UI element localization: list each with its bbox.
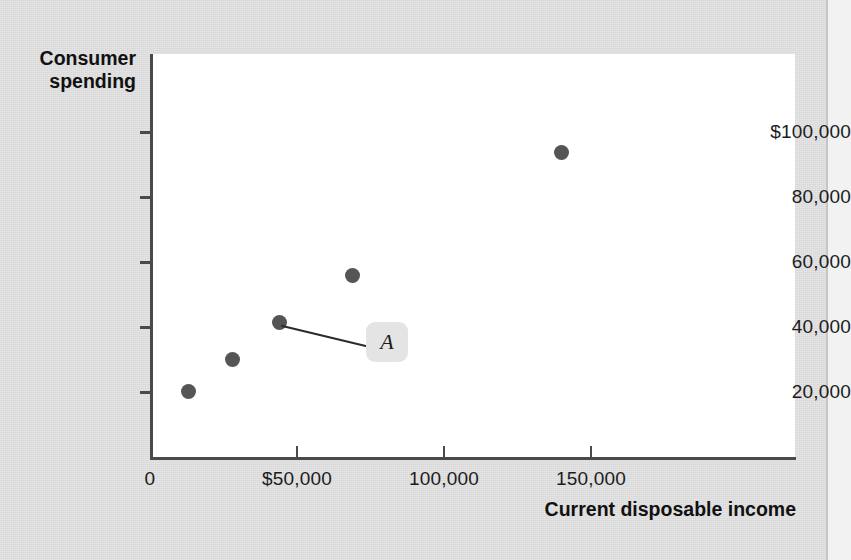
y-axis-title-line-2: spending bbox=[0, 70, 136, 93]
y-axis-tick bbox=[140, 196, 153, 199]
x-axis-title: Current disposable income bbox=[420, 498, 796, 521]
y-axis-tick-label: 20,000 bbox=[719, 381, 851, 403]
y-axis-tick-label: 40,000 bbox=[719, 316, 851, 338]
y-axis-tick bbox=[140, 326, 153, 329]
x-axis-tick-label: 100,000 bbox=[374, 468, 514, 490]
data-point bbox=[181, 384, 196, 399]
x-axis-tick-label: $50,000 bbox=[227, 468, 367, 490]
x-axis-tick-label: 0 bbox=[80, 468, 220, 490]
callout-label-a: A bbox=[366, 322, 408, 362]
y-axis-tick bbox=[140, 131, 153, 134]
x-axis-tick bbox=[296, 446, 299, 459]
y-axis-title: Consumer spending bbox=[0, 47, 136, 93]
y-axis-tick-label: 60,000 bbox=[719, 251, 851, 273]
y-axis-tick-label: 80,000 bbox=[719, 186, 851, 208]
y-axis-tick-label: $100,000 bbox=[719, 121, 851, 143]
page-right-margin bbox=[828, 0, 851, 560]
x-axis-tick bbox=[590, 446, 593, 459]
plot-area bbox=[152, 54, 795, 458]
x-axis-tick bbox=[443, 446, 446, 459]
y-axis-line bbox=[150, 54, 153, 460]
data-point bbox=[554, 145, 569, 160]
data-point bbox=[225, 352, 240, 367]
callout-label-a-text: A bbox=[380, 329, 393, 355]
figure-root: Consumer spending Current disposable inc… bbox=[0, 0, 851, 560]
y-axis-tick bbox=[140, 261, 153, 264]
y-axis-tick bbox=[140, 391, 153, 394]
x-axis-tick-label: 150,000 bbox=[521, 468, 661, 490]
x-axis-line bbox=[150, 457, 796, 460]
y-axis-title-line-1: Consumer bbox=[0, 47, 136, 70]
